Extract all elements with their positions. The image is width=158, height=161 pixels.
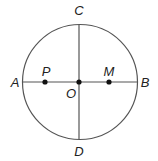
circle-diagram: A B C D O P M bbox=[0, 0, 158, 161]
label-p: P bbox=[42, 64, 51, 79]
label-a: A bbox=[10, 75, 20, 90]
label-d: D bbox=[74, 144, 83, 159]
point-p-dot bbox=[42, 79, 47, 84]
label-m: M bbox=[104, 64, 115, 79]
label-o: O bbox=[66, 86, 76, 101]
point-m-dot bbox=[106, 79, 111, 84]
label-b: B bbox=[141, 75, 150, 90]
label-c: C bbox=[74, 3, 84, 18]
point-o-dot bbox=[76, 79, 81, 84]
